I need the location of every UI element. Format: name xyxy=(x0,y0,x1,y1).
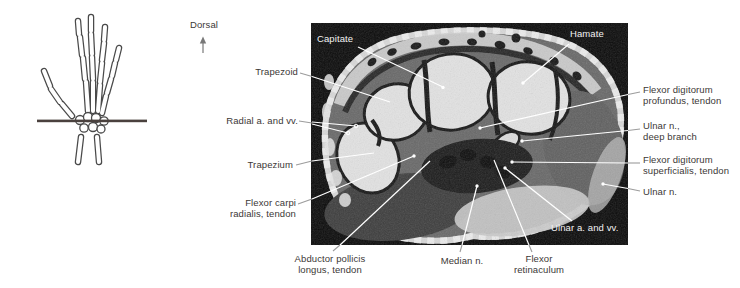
label-radial-a-vv: Radial a. and vv. xyxy=(190,115,298,126)
label-trapezium: Trapezium xyxy=(205,159,293,170)
label-flexor-digitorum-superficialis: Flexor digitorum superficialis, tendon xyxy=(643,154,740,176)
label-flexor-carpi-radialis: Flexor carpi radialis, tendon xyxy=(190,197,296,219)
figure-graphics xyxy=(0,0,740,288)
label-ulnar-n-deep-branch: Ulnar n., deep branch xyxy=(643,120,738,142)
label-flexor-retinaculum: Flexor retinaculum xyxy=(492,253,586,275)
section-plane-line xyxy=(37,120,147,123)
label-abductor-pollicis-longus: Abductor pollicis longus, tendon xyxy=(277,253,383,275)
label-trapezoid: Trapezoid xyxy=(210,66,298,77)
mri-axial-wrist-image xyxy=(311,23,635,249)
label-hamate: Hamate xyxy=(570,28,604,39)
label-capitate: Capitate xyxy=(317,33,353,44)
dorsal-arrow-icon xyxy=(200,37,206,54)
label-ulnar-n: Ulnar n. xyxy=(643,186,738,197)
orientation-label-dorsal: Dorsal xyxy=(186,19,222,30)
hand-skeleton-inset xyxy=(37,17,147,162)
mri-noise-texture xyxy=(311,23,628,245)
figure-canvas: Dorsal Capitate Hamate Ulnar a. and vv. … xyxy=(0,0,740,288)
label-ulnar-a-vv: Ulnar a. and vv. xyxy=(551,222,618,233)
label-flexor-digitorum-profundus: Flexor digitorum profundus, tendon xyxy=(643,84,738,106)
